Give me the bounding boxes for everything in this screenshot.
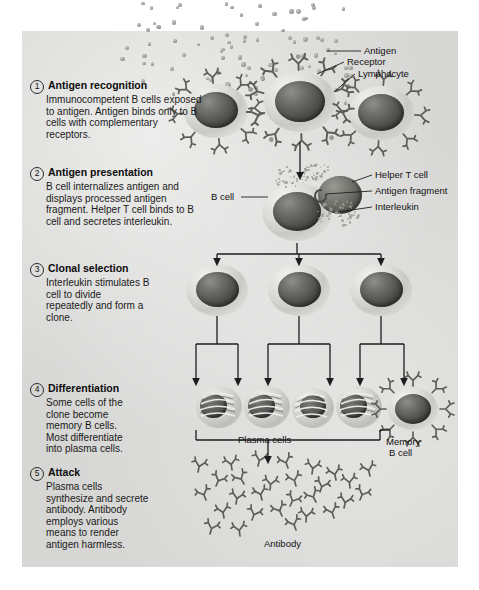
interleukin-speck bbox=[280, 181, 281, 182]
antigen-dot bbox=[254, 86, 257, 89]
interleukin-speck bbox=[303, 182, 304, 183]
antigen-dot bbox=[150, 7, 153, 10]
interleukin-speck bbox=[356, 216, 359, 219]
antigen-dot bbox=[227, 41, 231, 45]
antigen-dot bbox=[238, 55, 243, 60]
label-helper-t-cell: Helper T cell bbox=[375, 169, 428, 180]
antigen-dot bbox=[270, 64, 273, 67]
step-1-body: Immunocompetent B cells exposed to antig… bbox=[46, 94, 202, 140]
interleukin-speck bbox=[320, 221, 322, 223]
interleukin-speck bbox=[290, 170, 292, 172]
antigen-dot bbox=[120, 57, 125, 62]
antigen-dot bbox=[153, 22, 156, 25]
clone-cell-2 bbox=[268, 264, 330, 316]
step-1-title: Antigen recognition bbox=[48, 79, 147, 91]
label-plasma-cells: Plasma cells bbox=[238, 434, 291, 445]
label-memory-line1: Memory bbox=[386, 436, 420, 447]
interleukin-speck bbox=[334, 203, 336, 205]
antigen-dot bbox=[240, 13, 244, 17]
interleukin-speck bbox=[339, 215, 341, 217]
step-3-body: Interleukin stimulates B cell to divide … bbox=[46, 277, 150, 323]
interleukin-speck bbox=[328, 218, 330, 220]
label-antigen-fragment: Antigen fragment bbox=[375, 185, 447, 196]
step-3-title: Clonal selection bbox=[48, 262, 129, 274]
step-1-number: 1 bbox=[30, 80, 44, 94]
antigen-dot bbox=[142, 62, 145, 65]
label-memory-line2: B cell bbox=[389, 447, 412, 458]
antigen-dot bbox=[241, 62, 246, 67]
interleukin-speck bbox=[315, 178, 317, 180]
step-4-title: Differentiation bbox=[48, 382, 119, 394]
interleukin-speck bbox=[279, 169, 281, 171]
memory-b-cell bbox=[388, 388, 438, 430]
antigen-dot bbox=[256, 38, 259, 41]
lymphocyte-center bbox=[264, 72, 336, 132]
label-b-cell: B cell bbox=[211, 191, 234, 202]
step-1: 1 Antigen recognition Immunocompetent B … bbox=[30, 79, 202, 140]
label-antigen: Antigen bbox=[364, 45, 396, 56]
step-5-number: 5 bbox=[30, 467, 44, 481]
interleukin-speck bbox=[293, 176, 295, 178]
antigen-dot bbox=[148, 42, 151, 45]
interleukin-speck bbox=[345, 209, 346, 210]
interleukin-speck bbox=[278, 178, 280, 180]
step-2-number: 2 bbox=[30, 167, 44, 181]
interleukin-speck bbox=[318, 217, 321, 220]
antigen-dot bbox=[142, 54, 146, 58]
interleukin-speck bbox=[321, 214, 324, 217]
label-lymphocyte: Lymphocyte bbox=[358, 68, 409, 79]
figure-canvas: 1 Antigen recognition Immunocompetent B … bbox=[0, 0, 479, 590]
antigen-dot bbox=[272, 12, 277, 17]
antigen-dot bbox=[247, 66, 251, 70]
clone-cell-1 bbox=[186, 264, 248, 316]
interleukin-speck bbox=[320, 175, 323, 178]
antigen-dot bbox=[225, 2, 229, 6]
antigen-dot bbox=[255, 22, 259, 26]
interleukin-speck bbox=[286, 166, 288, 168]
interleukin-speck bbox=[285, 186, 287, 188]
antigen-dot bbox=[334, 52, 337, 55]
interleukin-speck bbox=[331, 210, 333, 212]
interleukin-speck bbox=[296, 178, 298, 180]
antigen-dot bbox=[326, 48, 329, 51]
antigen-dot bbox=[258, 4, 262, 8]
label-receptor: Receptor bbox=[347, 56, 386, 67]
antigen-dot bbox=[209, 78, 213, 82]
antigen-dot bbox=[182, 53, 186, 57]
step-4-body: Some cells of the clone become memory B … bbox=[46, 397, 140, 455]
interleukin-speck bbox=[295, 185, 296, 186]
interleukin-speck bbox=[275, 180, 276, 181]
antigen-dot bbox=[172, 20, 177, 25]
interleukin-speck bbox=[314, 164, 317, 167]
step-5-body: Plasma cells synthesize and secrete anti… bbox=[46, 481, 150, 551]
interleukin-speck bbox=[302, 171, 304, 173]
step-2-body: B cell internalizes antigen and displays… bbox=[46, 181, 202, 227]
label-interleukin: Interleukin bbox=[375, 201, 419, 212]
interleukin-speck bbox=[349, 221, 351, 223]
antigen-dot bbox=[289, 9, 294, 14]
step-2-title: Antigen presentation bbox=[48, 166, 153, 178]
interleukin-speck bbox=[327, 166, 329, 168]
antigen-dot bbox=[342, 7, 346, 11]
step-4: 4 Differentiation Some cells of the clon… bbox=[30, 382, 140, 455]
clone-cell-3 bbox=[350, 264, 412, 316]
antigen-dot bbox=[344, 73, 349, 78]
step-5-title: Attack bbox=[48, 466, 80, 478]
interleukin-speck bbox=[279, 172, 281, 174]
interleukin-speck bbox=[328, 212, 331, 215]
interleukin-speck bbox=[307, 169, 310, 172]
antigen-dot bbox=[176, 6, 179, 9]
plasma-cell-4 bbox=[336, 386, 382, 428]
antigen-dot bbox=[334, 39, 338, 43]
step-3-number: 3 bbox=[30, 263, 44, 277]
antigen-dot bbox=[243, 35, 247, 39]
antigen-dot bbox=[349, 74, 353, 78]
step-2: 2 Antigen presentation B cell internaliz… bbox=[30, 166, 202, 227]
antigen-dot bbox=[146, 28, 150, 32]
antigen-dot bbox=[301, 54, 306, 59]
antigen-dot bbox=[137, 23, 141, 27]
label-antibody: Antibody bbox=[264, 538, 301, 549]
antigen-dot bbox=[344, 101, 348, 105]
lymphocyte-right bbox=[348, 86, 414, 140]
antigen-dot bbox=[221, 56, 225, 60]
